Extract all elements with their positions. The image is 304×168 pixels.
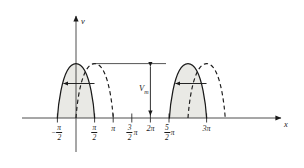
fraction-numerator: 5 xyxy=(164,124,170,132)
x-tick-label-2pi: 2π xyxy=(146,125,154,133)
fraction-denominator: 2 xyxy=(56,134,62,142)
fraction: π 2 xyxy=(56,124,62,141)
fraction-numerator: π xyxy=(91,124,97,132)
x-tick-label-3pi-over-2: 3 2 π xyxy=(126,124,137,141)
fraction: 5 2 xyxy=(164,124,170,141)
amplitude-subscript: m xyxy=(144,89,148,95)
amplitude-label: Vm xyxy=(139,84,149,95)
fraction-denominator: 2 xyxy=(91,134,97,142)
rectified-sine-wave-figure: v x Vm − π 2 π 2 π 3 2 π 2π xyxy=(0,0,304,168)
x-tick-label-pi-over-2: π 2 xyxy=(91,124,99,141)
x-tick-label-5pi-over-2: 5 2 π xyxy=(163,124,174,141)
x-tick-label-3pi: 3π xyxy=(203,125,211,133)
fraction-numerator: 3 xyxy=(127,124,133,132)
y-axis-label: v xyxy=(81,17,85,26)
fraction-trailing: π xyxy=(171,129,175,137)
fraction: 3 2 xyxy=(127,124,133,141)
shaded-area-arch-2 xyxy=(169,64,206,118)
minus-sign: − xyxy=(52,129,56,137)
shaded-area-group xyxy=(57,64,206,118)
fraction-numerator: π xyxy=(56,124,62,132)
fraction: π 2 xyxy=(91,124,97,141)
fraction-denominator: 2 xyxy=(164,134,170,142)
plot-canvas xyxy=(0,0,304,168)
fraction-denominator: 2 xyxy=(127,134,133,142)
x-axis-label: x xyxy=(284,120,288,129)
x-tick-label-pi: π xyxy=(111,125,115,133)
x-tick-label--pi-over-2: − π 2 xyxy=(52,124,64,141)
fraction-trailing: π xyxy=(134,129,138,137)
